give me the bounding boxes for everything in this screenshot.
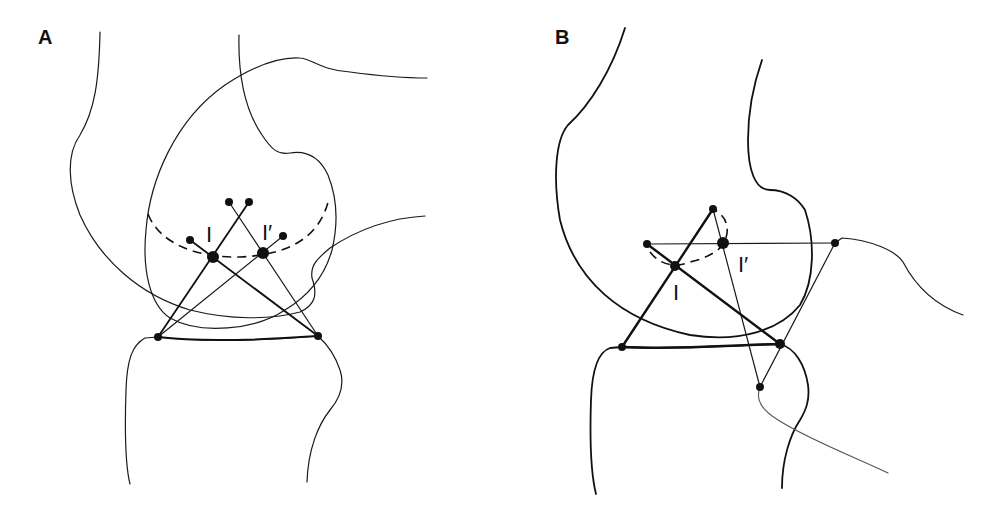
panel-a-label-i: I — [206, 222, 212, 247]
panel-a-instant-center-i-prime — [257, 247, 269, 259]
panel-b-attach-right — [831, 239, 839, 247]
panel-b-femur-posterior-outline — [556, 28, 812, 337]
panel-a-femoral-attach-3 — [186, 236, 194, 244]
panel-a-instant-center-i — [207, 251, 219, 263]
panel-b-attach-lower — [756, 383, 764, 391]
panel-b-tibial-attach-left — [618, 343, 626, 351]
panel-b-patella-tendon-outline — [835, 238, 963, 315]
knee-four-bar-linkage-figure: A B — [0, 0, 997, 512]
panel-a-femur-anterior-outline — [145, 35, 427, 328]
panel-a-tibial-attach-left — [154, 333, 162, 341]
panel-b-femoral-attach-left — [643, 240, 651, 248]
panel-b: I I′ — [556, 28, 963, 494]
panel-b-fibula-outline — [758, 387, 888, 473]
panel-a-femoral-attach-1 — [225, 198, 233, 206]
panel-a-tibial-attach-right — [314, 332, 322, 340]
diagram-canvas: I I′ — [0, 0, 997, 512]
panel-a-femoral-attach-4 — [279, 232, 287, 240]
panel-b-instant-center-i — [670, 261, 680, 271]
panel-b-thin-link-right — [760, 243, 835, 387]
panel-b-label-i: I — [673, 280, 679, 305]
panel-b-femoral-attach-top — [709, 205, 717, 213]
panel-b-tibial-plateau — [622, 344, 780, 348]
panel-a: I I′ — [70, 32, 427, 484]
panel-b-label-i-prime: I′ — [738, 252, 748, 277]
panel-a-label-i-prime: I′ — [262, 220, 272, 245]
panel-b-acl-bar — [622, 209, 713, 347]
panel-a-tibia-outline — [125, 336, 342, 484]
panel-a-tibial-plateau — [158, 336, 318, 340]
panel-b-tibial-attach-right — [775, 339, 785, 349]
panel-b-horizontal-link — [647, 243, 835, 244]
panel-b-instant-center-i-prime — [717, 237, 729, 249]
panel-a-centrode-arc — [148, 198, 329, 257]
panel-a-femoral-attach-2 — [245, 198, 253, 206]
